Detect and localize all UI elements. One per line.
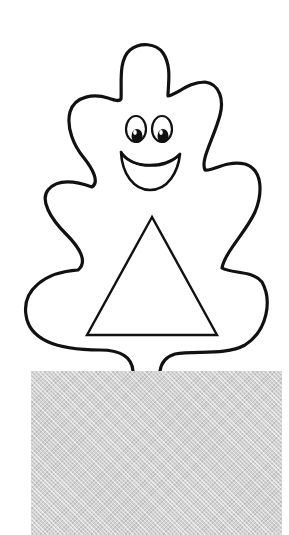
coloring-page [0, 0, 289, 535]
left-eye-icon [126, 116, 146, 143]
right-eye-icon [152, 116, 172, 143]
gray-base-rectangle [31, 371, 282, 535]
smile-mouth [121, 152, 180, 190]
blob-outline [26, 45, 268, 371]
triangle-shape [87, 217, 217, 335]
